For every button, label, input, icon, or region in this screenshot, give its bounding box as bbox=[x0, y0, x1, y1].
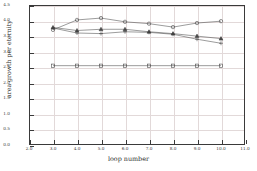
x-axis-tick bbox=[30, 140, 31, 144]
x-axis-tick bbox=[126, 140, 127, 144]
plot-area bbox=[29, 5, 245, 145]
x-axis-tick bbox=[78, 140, 79, 144]
x-axis-tick-label: 4.0 bbox=[66, 147, 88, 151]
gridline-vertical bbox=[198, 6, 199, 144]
gridline-vertical bbox=[102, 6, 103, 144]
y-axis-tick-label: 3.0 bbox=[0, 50, 10, 54]
y-axis-tick-label: 0.0 bbox=[0, 143, 10, 147]
gridline-horizontal bbox=[30, 68, 244, 69]
x-axis-tick-label: 7.0 bbox=[138, 147, 160, 151]
gridline-horizontal bbox=[30, 99, 244, 100]
gridline-vertical bbox=[126, 6, 127, 144]
x-axis-tick-label: 10.0 bbox=[210, 147, 232, 151]
chart-container: area growth per eternity loop number 0.0… bbox=[0, 0, 257, 171]
gridline-horizontal bbox=[30, 130, 244, 131]
x-axis-tick-label: 2.0 bbox=[18, 147, 40, 151]
gridline-horizontal bbox=[30, 115, 244, 116]
y-axis-tick-label: 4.5 bbox=[0, 3, 10, 7]
y-axis-tick-label: 4.0 bbox=[0, 18, 10, 22]
gridline-vertical bbox=[222, 6, 223, 144]
gridline-vertical bbox=[150, 6, 151, 144]
x-axis-tick bbox=[174, 140, 175, 144]
y-axis-tick bbox=[30, 115, 34, 116]
gridline-vertical bbox=[78, 6, 79, 144]
x-axis-tick bbox=[54, 140, 55, 144]
gridline-horizontal bbox=[30, 84, 244, 85]
x-axis-tick-label: 9.0 bbox=[186, 147, 208, 151]
x-axis-tick-label: 3.0 bbox=[42, 147, 64, 151]
gridline-horizontal bbox=[30, 53, 244, 54]
gridline-vertical bbox=[174, 6, 175, 144]
y-axis-tick-label: 2.0 bbox=[0, 81, 10, 85]
x-axis-tick bbox=[102, 140, 103, 144]
y-axis-tick bbox=[30, 22, 34, 23]
gridline-horizontal bbox=[30, 37, 244, 38]
x-axis-title: loop number bbox=[0, 156, 257, 162]
y-axis-tick bbox=[30, 53, 34, 54]
x-axis-tick-label: 5.0 bbox=[90, 147, 112, 151]
x-axis-tick-label: 11.0 bbox=[234, 147, 256, 151]
y-axis-tick bbox=[30, 6, 34, 7]
x-axis-tick-label: 8.0 bbox=[162, 147, 184, 151]
gridline-horizontal bbox=[30, 6, 244, 7]
x-axis-tick bbox=[198, 140, 199, 144]
y-axis-tick bbox=[30, 68, 34, 69]
x-axis-tick bbox=[222, 140, 223, 144]
y-axis-tick-label: 3.5 bbox=[0, 34, 10, 38]
x-axis-tick bbox=[246, 140, 247, 144]
gridline-horizontal bbox=[30, 22, 244, 23]
y-axis-tick bbox=[30, 37, 34, 38]
x-axis-tick bbox=[150, 140, 151, 144]
y-axis-tick-label: 1.5 bbox=[0, 96, 10, 100]
x-axis-tick-label: 6.0 bbox=[114, 147, 136, 151]
y-axis-tick bbox=[30, 84, 34, 85]
y-axis-tick-label: 0.5 bbox=[0, 127, 10, 131]
y-axis-tick-label: 2.5 bbox=[0, 65, 10, 69]
y-axis-tick bbox=[30, 99, 34, 100]
y-axis-tick bbox=[30, 130, 34, 131]
gridline-vertical bbox=[54, 6, 55, 144]
y-axis-tick-label: 1.0 bbox=[0, 112, 10, 116]
